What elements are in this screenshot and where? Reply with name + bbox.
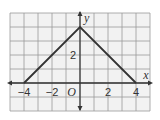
x-tick-label: −4 bbox=[18, 86, 31, 98]
x-tick-label: −2 bbox=[46, 86, 59, 98]
origin-label: O bbox=[67, 85, 76, 99]
coordinate-graph: −4−2242Oxy bbox=[0, 0, 160, 120]
x-axis-arrow-left-icon bbox=[7, 81, 12, 86]
x-axis-arrow-right-icon bbox=[148, 81, 153, 86]
x-tick-label: 4 bbox=[133, 86, 139, 98]
y-tick-label: 2 bbox=[70, 49, 76, 61]
y-axis-label: y bbox=[83, 11, 90, 25]
x-tick-label: 2 bbox=[105, 86, 111, 98]
x-axis-label: x bbox=[142, 68, 149, 82]
